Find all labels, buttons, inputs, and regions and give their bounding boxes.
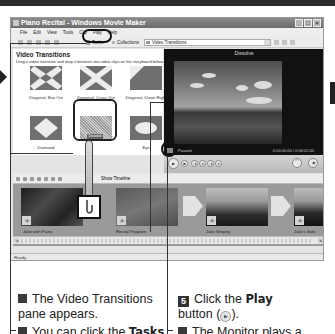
new-folder-icon[interactable] (282, 40, 287, 45)
bullet-square-icon (18, 327, 27, 334)
star-icon: ★ (207, 216, 216, 225)
diagonal-down-right-icon (130, 66, 162, 90)
timeline-icon[interactable] (58, 177, 62, 181)
rewind-icon[interactable] (44, 177, 48, 181)
caption-text: button ( (178, 307, 220, 321)
collection-select[interactable]: Video Transitions (144, 39, 271, 46)
close-button[interactable]: × (313, 19, 321, 27)
playback-controls: ▶ ■ ◂ ▸ ◂ ▸ ⌒ ◉ (164, 155, 324, 173)
dissolve-callout-line (10, 153, 73, 154)
play-storyboard-icon[interactable] (51, 177, 55, 181)
caption-text: You can click the (32, 325, 129, 334)
clip-label: Recital Program (116, 229, 146, 234)
menu-tools[interactable]: Tools (63, 28, 74, 37)
collections-button[interactable]: Collections (112, 39, 139, 46)
transition-tile-diamond[interactable]: Diamond (26, 116, 66, 156)
diagonal-cross-out-icon (80, 66, 112, 90)
book-page: Piano Recital - Windows Movie Maker _ □ … (0, 0, 335, 334)
clip-label: Jake's Solo (294, 229, 315, 234)
caption-text: ). (231, 307, 239, 321)
scrollbar-thumb[interactable] (21, 239, 311, 243)
bullet-square-icon (18, 294, 27, 303)
storyboard-clip[interactable]: ★ (21, 188, 83, 226)
previous-frame-button[interactable]: ◂ (191, 160, 198, 167)
narrate-icon[interactable] (23, 177, 27, 181)
tasks-callout-line (10, 43, 86, 44)
tile-label: Diamond (18, 145, 74, 150)
play-highlight-circle (161, 141, 177, 157)
clip-label: Jake Singing (206, 229, 230, 234)
storyboard-scrollbar[interactable]: ◂ ▸ (13, 236, 324, 244)
menu-file[interactable]: File (20, 28, 27, 37)
show-timeline-button[interactable]: Show Timeline (101, 174, 130, 184)
clip-label: Jake with Piano (23, 229, 52, 234)
minimize-button[interactable]: _ (295, 19, 303, 27)
diagonal-box-out-icon (30, 66, 62, 90)
cloud (202, 73, 216, 78)
left-callout-line (10, 43, 11, 334)
snapshot-button[interactable]: ◉ (308, 158, 318, 168)
transition-slot[interactable] (271, 196, 291, 216)
left-bullet-tick (10, 330, 16, 331)
forward-button[interactable]: ▸ (215, 160, 222, 167)
right-caption-2: The Monitor plays a (178, 325, 333, 334)
monitor-callout-line (150, 102, 151, 232)
tasks-highlight-circle (82, 29, 112, 43)
next-frame-button[interactable]: ▸ (199, 160, 206, 167)
cloud (190, 83, 204, 88)
step-number: 5 (178, 296, 189, 307)
right-callout-arrow (330, 82, 335, 104)
left-caption-2: You can click the Tasks (18, 325, 168, 334)
cloud (254, 81, 272, 89)
timecode: 0:00:00.00 / 0:00:02.00 (273, 147, 314, 154)
up-level-icon[interactable] (274, 40, 279, 45)
set-audio-levels-icon[interactable] (16, 177, 20, 181)
bullet-square-icon (178, 327, 187, 334)
caption-bold: Tasks (129, 325, 164, 334)
zoom-in-icon[interactable] (30, 177, 34, 181)
transition-slot[interactable] (183, 196, 203, 216)
split-clip-button[interactable]: ⌒ (292, 158, 302, 168)
transition-tile-diagonal-box-out[interactable]: Diagonal, Box Out (26, 66, 66, 106)
title-bar: Piano Recital - Windows Movie Maker _ □ … (11, 18, 323, 28)
transition-tile-eye[interactable]: Eye (126, 116, 166, 156)
window-controls: _ □ × (295, 19, 321, 27)
playback-status: Paused (178, 147, 192, 154)
storyboard-icons (16, 177, 62, 181)
chevron-down-icon[interactable] (264, 40, 270, 45)
transition-tile-diagonal-down-right[interactable]: Diagonal, Down Right (126, 66, 166, 106)
stop-button[interactable]: ■ (181, 160, 188, 167)
maximize-button[interactable]: □ (304, 19, 312, 27)
zoom-out-icon[interactable] (37, 177, 41, 181)
monitor-title: Dissolve (164, 50, 324, 56)
pane-description: Drag a video transition and drop it betw… (16, 59, 164, 64)
star-icon: ★ (295, 216, 304, 225)
menu-edit[interactable]: Edit (33, 28, 41, 37)
drop-target-highlight (77, 195, 101, 219)
star-icon: ★ (117, 216, 126, 225)
pane-title: Video Transitions (16, 51, 70, 58)
collection-select-value: Video Transitions (152, 40, 186, 45)
back-button[interactable]: ◂ (207, 160, 214, 167)
preview-monitor: Dissolve Paused 0:00:00.00 / 0:00:02.00 … (164, 49, 324, 173)
caption-text: The Video Transitions pane appears. (18, 292, 153, 321)
window-title: Piano Recital - Windows Movie Maker (21, 19, 146, 26)
storyboard-clip[interactable]: ★ (206, 188, 268, 226)
eye-icon (130, 116, 162, 140)
storyboard-clip[interactable]: ★ (294, 188, 324, 226)
tile-label: Diagonal, Box Out (18, 95, 74, 100)
caption-bold: Play (245, 292, 272, 306)
play-button-icon: ▶ (220, 311, 231, 322)
storyboard: Show Timeline ★ Jake with Piano ★ Recita… (13, 174, 324, 246)
diamond-icon (30, 116, 62, 140)
caption-text: Click the (194, 292, 245, 306)
scroll-left-icon[interactable]: ◂ (14, 238, 19, 243)
storyboard-clip[interactable]: ★ (116, 188, 178, 226)
cloud (236, 85, 248, 91)
scroll-right-icon[interactable]: ▸ (318, 238, 323, 243)
menu-view[interactable]: View (47, 28, 57, 37)
views-icon[interactable] (290, 40, 295, 45)
star-icon: ★ (22, 216, 31, 225)
play-button[interactable]: ▶ (168, 158, 179, 169)
caption-text: The Monitor plays a (192, 325, 302, 334)
